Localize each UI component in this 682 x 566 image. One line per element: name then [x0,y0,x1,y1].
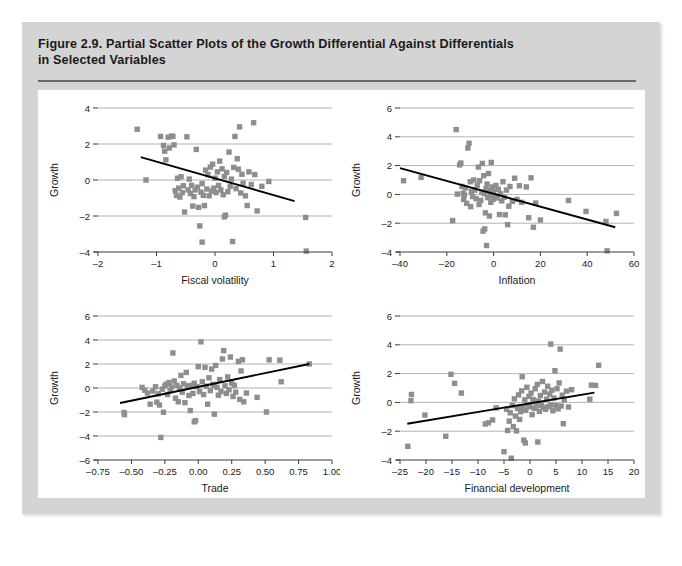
scatter-marker [277,357,282,362]
scatter-marker [188,408,193,413]
scatter-marker [507,184,512,189]
scatter-marker [548,402,553,407]
scatter-marker [556,380,561,385]
y-tick-label: –6 [79,455,90,466]
scatter-marker [401,178,406,183]
scatter-marker [518,409,523,414]
scatter-marker [596,363,601,368]
y-tick-label: –4 [381,455,392,466]
figure-title-line-2: in Selected Variables [38,53,166,67]
scatter-marker [235,156,240,161]
scatter-marker [409,392,414,397]
x-tick-label: –1 [151,258,162,269]
scatter-marker [587,397,592,402]
x-tick-label: –10 [470,466,486,477]
scatter-panel-inflation: –40–200204060–4–20246GrowthInflation [346,94,642,298]
scatter-marker [249,182,254,187]
x-tick-label: 1.00 [323,466,340,477]
scatter-marker [196,205,201,210]
scatter-marker [233,186,238,191]
scatter-marker [218,389,223,394]
scatter-marker [466,141,471,146]
scatter-marker [481,173,486,178]
scatter-marker [147,402,152,407]
scatter-marker [500,179,505,184]
scatter-marker [566,404,571,409]
scatter-marker [480,161,485,166]
x-tick-label: –20 [418,466,434,477]
y-tick-label: 2 [387,160,392,171]
y-tick-label: 0 [387,189,392,200]
scatter-marker [217,158,222,163]
scatter-marker [508,410,513,415]
scatter-marker [475,183,480,188]
scatter-marker [461,197,466,202]
scatter-marker [557,346,562,351]
scatter-marker [450,218,455,223]
scatter-marker [222,214,227,219]
x-axis-title: Trade [201,482,228,494]
x-tick-label: –2 [93,258,104,269]
scatter-marker [254,208,259,213]
scatter-marker [564,388,569,393]
scatter-marker [158,435,163,440]
scatter-marker [219,166,224,171]
scatter-marker [232,383,237,388]
x-tick-label: 0 [527,466,532,477]
y-tick-label: 4 [85,103,90,114]
x-tick-label: 0.25 [222,466,241,477]
scatter-marker [614,211,619,216]
scatter-marker [199,239,204,244]
figure-title-line-1: Figure 2.9. Partial Scatter Plots of the… [38,37,514,51]
x-tick-label: 0.50 [256,466,275,477]
x-tick-label: –0.50 [120,466,144,477]
scatter-marker [215,169,220,174]
scatter-marker [143,177,148,182]
scatter-marker [505,222,510,227]
y-axis-title: Growth [48,371,60,405]
x-tick-label: 40 [582,258,593,269]
scatter-marker [167,145,172,150]
scatter-marker [170,134,175,139]
scatter-marker [566,198,571,203]
scatter-marker [202,365,207,370]
trend-line [400,168,615,227]
scatter-marker [244,390,249,395]
scatter-marker [176,399,181,404]
scatter-plot-trade: –0.75–0.50–0.250.000.250.500.751.00–6–4–… [44,302,340,506]
x-tick-label: –40 [392,258,408,269]
scatter-marker [228,184,233,189]
scatter-marker [237,124,242,129]
scatter-marker [604,248,609,253]
plot-canvas: –2–1012–4–2024GrowthFiscal volatility –4… [38,90,645,498]
x-axis-title: Fiscal volatility [181,274,249,286]
scatter-marker [201,193,206,198]
scatter-marker [552,368,557,373]
gridlines [98,316,332,436]
scatter-marker [455,191,460,196]
scatter-marker [232,134,237,139]
scatter-marker [443,434,448,439]
scatter-marker [197,223,202,228]
scatter-marker [190,391,195,396]
scatter-marker [468,204,473,209]
scatter-marker [535,439,540,444]
scatter-marker [529,412,534,417]
scatter-marker [231,165,236,170]
scatter-marker [549,387,554,392]
y-tick-label: 6 [85,311,90,322]
scatter-marker [490,417,495,422]
scatter-marker [569,387,574,392]
x-axis-title: Financial development [464,482,569,494]
scatter-marker [484,243,489,248]
y-tick-label: 2 [387,368,392,379]
scatter-marker [266,357,271,362]
y-axis-title: Growth [350,163,362,197]
y-tick-label: 2 [85,139,90,150]
scatter-marker [205,402,210,407]
scatter-marker [220,356,225,361]
scatter-marker [523,440,528,445]
scatter-marker [220,192,225,197]
scatter-marker [486,171,491,176]
x-tick-label: 0.00 [189,466,208,477]
